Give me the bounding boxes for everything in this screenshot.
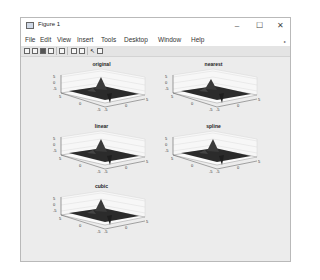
z-tick-label: -5 xyxy=(165,148,169,153)
y-tick-label: -5 xyxy=(104,107,108,112)
y-tick-label: 0 xyxy=(125,165,128,170)
new-figure-icon[interactable] xyxy=(24,48,30,54)
y-tick-label: 0 xyxy=(237,103,240,108)
y-tick-label: -5 xyxy=(216,107,220,112)
menu-bar: File Edit View Insert Tools Desktop Wind… xyxy=(21,34,290,46)
z-tick-label: 5 xyxy=(165,136,168,141)
z-tick-label: -5 xyxy=(165,86,169,91)
figure-window: Figure 1 – ☐ ✕ File Edit View Insert Too… xyxy=(20,17,291,262)
y-tick-label: 5 xyxy=(146,159,149,164)
z-tick-label: 5 xyxy=(53,196,56,201)
x-tick-label: 5 xyxy=(59,216,62,221)
title-bar: Figure 1 – ☐ ✕ xyxy=(21,18,290,34)
z-tick-label: 0 xyxy=(165,142,168,147)
subplot-nearest[interactable]: nearest 50-550-5-505 xyxy=(161,61,266,116)
toolbar-overflow-icon[interactable]: ▸ xyxy=(284,39,286,44)
y-tick-label: 5 xyxy=(146,219,149,224)
surface-plot: 50-550-5-505 xyxy=(49,129,154,179)
pointer-icon[interactable]: ↖ xyxy=(90,48,96,54)
save-icon[interactable] xyxy=(40,48,46,54)
menu-window[interactable]: Window xyxy=(158,36,181,43)
toolbar-separator xyxy=(67,47,68,55)
z-tick-label: 0 xyxy=(53,142,56,147)
x-tick-label: 0 xyxy=(79,223,82,228)
y-tick-label: 5 xyxy=(258,97,261,102)
z-tick-label: 0 xyxy=(53,80,56,85)
x-tick-label: 5 xyxy=(59,156,62,161)
y-tick-label: 0 xyxy=(237,165,240,170)
open-file-icon[interactable] xyxy=(32,48,38,54)
x-tick-label: 5 xyxy=(59,94,62,99)
x-tick-label: -5 xyxy=(97,229,101,234)
legend-icon[interactable] xyxy=(79,48,85,54)
colorbar-icon[interactable] xyxy=(71,48,77,54)
z-tick-label: 5 xyxy=(53,74,56,79)
minimize-button[interactable]: – xyxy=(230,20,244,32)
toolbar-separator xyxy=(56,47,57,55)
x-tick-label: 0 xyxy=(191,101,194,106)
menu-tools[interactable]: Tools xyxy=(101,36,116,43)
maximize-button[interactable]: ☐ xyxy=(252,20,266,32)
close-button[interactable]: ✕ xyxy=(273,20,287,32)
x-tick-label: -5 xyxy=(97,169,101,174)
y-tick-label: -5 xyxy=(216,169,220,174)
x-tick-label: -5 xyxy=(97,107,101,112)
property-editor-icon[interactable] xyxy=(97,48,103,54)
y-tick-label: -5 xyxy=(104,169,108,174)
matlab-figure-icon xyxy=(26,22,34,29)
subplot-linear[interactable]: linear 50-550-5-505 xyxy=(49,123,154,178)
subplot-spline[interactable]: spline 50-550-5-505 xyxy=(161,123,266,178)
z-tick-label: 0 xyxy=(165,80,168,85)
menu-edit[interactable]: Edit xyxy=(40,36,51,43)
menu-help[interactable]: Help xyxy=(191,36,204,43)
y-tick-label: 0 xyxy=(125,103,128,108)
subplot-original[interactable]: original 50-550-5-505 xyxy=(49,61,154,116)
zoom-icon[interactable] xyxy=(59,48,65,54)
z-tick-label: -5 xyxy=(53,208,57,213)
x-tick-label: -5 xyxy=(209,107,213,112)
z-tick-label: 5 xyxy=(165,74,168,79)
x-tick-label: 0 xyxy=(79,163,82,168)
surface-plot: 50-550-5-505 xyxy=(49,189,154,239)
x-tick-label: 0 xyxy=(191,163,194,168)
z-tick-label: 0 xyxy=(53,202,56,207)
z-tick-label: -5 xyxy=(53,86,57,91)
surface-plot: 50-550-5-505 xyxy=(161,129,266,179)
y-tick-label: -5 xyxy=(104,229,108,234)
toolbar-separator xyxy=(87,47,88,55)
x-tick-label: 5 xyxy=(171,94,174,99)
menu-file[interactable]: File xyxy=(25,36,35,43)
y-tick-label: 5 xyxy=(146,97,149,102)
subplot-cubic[interactable]: cubic 50-550-5-505 xyxy=(49,183,154,238)
x-tick-label: 5 xyxy=(171,156,174,161)
z-tick-label: 5 xyxy=(53,136,56,141)
surface-plot: 50-550-5-505 xyxy=(49,67,154,117)
menu-view[interactable]: View xyxy=(57,36,71,43)
x-tick-label: 0 xyxy=(79,101,82,106)
menu-insert[interactable]: Insert xyxy=(77,36,93,43)
y-tick-label: 0 xyxy=(125,225,128,230)
z-tick-label: -5 xyxy=(53,148,57,153)
window-title: Figure 1 xyxy=(38,21,60,27)
figure-canvas: original 50-550-5-505 nearest 50-550-5-5… xyxy=(21,57,290,261)
y-tick-label: 5 xyxy=(258,159,261,164)
menu-desktop[interactable]: Desktop xyxy=(124,36,148,43)
print-icon[interactable] xyxy=(48,48,54,54)
toolbar: ↖ xyxy=(21,46,290,57)
x-tick-label: -5 xyxy=(209,169,213,174)
surface-plot: 50-550-5-505 xyxy=(161,67,266,117)
